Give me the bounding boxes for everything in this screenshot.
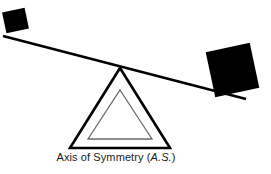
large-black-square: [206, 43, 260, 97]
axis-of-symmetry-label: Axis of Symmetry (A.S.): [0, 150, 232, 164]
caption-text-close: ): [172, 151, 176, 163]
fulcrum-inner-triangle: [88, 90, 152, 139]
caption-text-main: Axis of Symmetry (: [56, 151, 150, 163]
lever-balance-diagram: [0, 0, 271, 174]
small-black-square: [2, 8, 29, 33]
fulcrum-triangle: [70, 68, 170, 148]
diagram-canvas: Axis of Symmetry (A.S.): [0, 0, 271, 174]
caption-text-italic: A.S.: [151, 151, 172, 163]
